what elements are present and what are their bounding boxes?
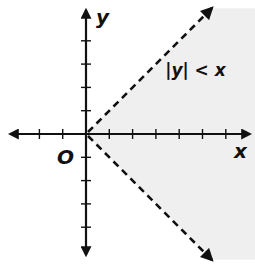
origin-label: O — [57, 145, 74, 169]
inequality-annotation: |y| < x — [165, 60, 227, 80]
x-axis-label: x — [233, 139, 248, 163]
y-axis-label: y — [96, 5, 110, 29]
inequality-graph: x y O |y| < x — [0, 0, 255, 265]
